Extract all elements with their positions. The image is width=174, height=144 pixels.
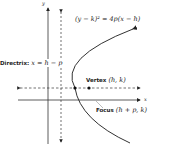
directrix-annotation: Directrix: x = h − p [0, 59, 62, 67]
focus-point [87, 86, 90, 89]
x-axis-label: x [144, 96, 147, 102]
directrix-label: Directrix: [0, 60, 29, 66]
y-axis-label: y [42, 0, 45, 6]
vertex-point [73, 86, 76, 89]
focus-annotation: Focus (h + p, k) [96, 106, 147, 114]
focus-coords: (h + p, k) [116, 106, 147, 114]
equation-label: (y − k)² = 4p(x − h) [75, 15, 140, 23]
parabola-curve [72, 29, 133, 143]
focus-label: Focus [96, 107, 114, 113]
directrix-equation: x = h − p [31, 59, 62, 67]
vertex-coords: (h, k) [108, 76, 125, 84]
vertex-annotation: Vertex (h, k) [86, 76, 126, 84]
vertex-label: Vertex [86, 77, 106, 83]
